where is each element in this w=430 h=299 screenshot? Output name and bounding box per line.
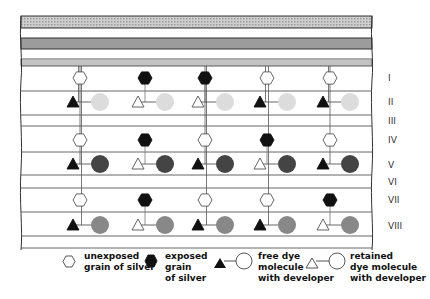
- layer-label: III: [388, 116, 396, 126]
- retained-developer-triangle-icon: [192, 96, 204, 107]
- layer-label: I: [388, 73, 391, 83]
- gray-band-layer: [21, 38, 372, 49]
- dye-molecule-circle-icon: [216, 155, 234, 173]
- dye-molecule-circle-icon: [91, 93, 109, 111]
- dye-molecule-circle-icon: [278, 216, 296, 234]
- unexposed-silver-grain-icon: [260, 194, 274, 206]
- right-edge: [371, 16, 372, 250]
- retained-dye-triangle-icon: [306, 258, 318, 268]
- free-developer-triangle-icon: [254, 219, 266, 230]
- exposed-silver-grain-icon: [138, 134, 152, 146]
- legend-unexposed: unexposed grain of silver: [63, 251, 155, 272]
- retained-developer-triangle-icon: [132, 158, 144, 169]
- dye-molecule-circle-icon: [341, 216, 359, 234]
- legend-exposed-line1: exposed: [165, 251, 207, 261]
- dye-molecule-circle-icon: [91, 216, 109, 234]
- legend-retained-dye-line3: with developer: [350, 273, 427, 283]
- exposed-silver-grain-icon: [138, 72, 152, 84]
- legend-free-dye-line3: with developer: [258, 273, 335, 283]
- dye-molecule-circle-icon: [156, 216, 174, 234]
- legend-unexposed-line2: grain of silver: [84, 262, 155, 272]
- legend-retained-dye-line2: dye molecule: [350, 262, 417, 272]
- free-developer-triangle-icon: [192, 219, 204, 230]
- free-developer-triangle-icon: [67, 219, 79, 230]
- unexposed-silver-grain-icon: [198, 134, 212, 146]
- dye-molecule-circle-icon: [91, 155, 109, 173]
- layer-label: V: [388, 160, 395, 170]
- layer-label: IV: [388, 135, 398, 145]
- unexposed-silver-grain-icon: [198, 194, 212, 206]
- unexposed-silver-grain-icon: [73, 194, 87, 206]
- legend-retained-dye-line1: retained: [350, 251, 393, 261]
- free-developer-triangle-icon: [192, 158, 204, 169]
- exposed-hexagon-icon: [145, 255, 157, 267]
- legend-exposed-line2: grain: [165, 262, 191, 272]
- free-developer-triangle-icon: [67, 96, 79, 107]
- exposed-silver-grain-icon: [260, 134, 274, 146]
- exposed-silver-grain-icon: [138, 194, 152, 206]
- dye-molecule-circle-icon: [216, 93, 234, 111]
- top-support-layer: [21, 16, 372, 28]
- legend-free-dye-line1: free dye: [258, 251, 300, 261]
- free-developer-triangle-icon: [317, 158, 329, 169]
- legend-exposed-line3: of silver: [165, 273, 207, 283]
- unexposed-silver-grain-icon: [260, 72, 274, 84]
- unexposed-hexagon-icon: [63, 256, 75, 267]
- retained-developer-triangle-icon: [254, 158, 266, 169]
- exposed-silver-grain-icon: [198, 72, 212, 84]
- dye-molecule-circle-icon: [341, 155, 359, 173]
- dye-molecule-circle-icon: [278, 155, 296, 173]
- free-dye-triangle-icon: [214, 258, 226, 268]
- unexposed-silver-grain-icon: [323, 134, 337, 146]
- layer-label: VIII: [388, 221, 402, 231]
- free-developer-triangle-icon: [317, 96, 329, 107]
- exposed-silver-grain-icon: [323, 194, 337, 206]
- legend: unexposed grain of silver exposed grain …: [63, 251, 427, 283]
- left-edge: [20, 16, 21, 250]
- legend-unexposed-line1: unexposed: [84, 251, 139, 261]
- dye-molecule-circle-icon: [236, 253, 252, 269]
- layer-label: II: [388, 97, 393, 107]
- grain-column: [132, 72, 174, 234]
- layer-label: VI: [388, 177, 397, 187]
- diagram: IIIIIIIVVVIVIIVIII unexposed grain of si…: [0, 0, 430, 299]
- layer-label: VII: [388, 195, 399, 205]
- retained-developer-triangle-icon: [132, 219, 144, 230]
- unexposed-silver-grain-icon: [73, 72, 87, 84]
- legend-exposed: exposed grain of silver: [145, 251, 207, 283]
- dye-molecule-circle-icon: [156, 93, 174, 111]
- dye-molecule-circle-icon: [216, 216, 234, 234]
- unexposed-silver-grain-icon: [73, 134, 87, 146]
- dye-molecule-circle-icon: [341, 93, 359, 111]
- wavy-band: [21, 59, 372, 66]
- retained-developer-triangle-icon: [317, 219, 329, 230]
- free-developer-triangle-icon: [67, 158, 79, 169]
- dye-molecule-circle-icon: [329, 253, 345, 269]
- legend-free-dye-line2: molecule: [258, 262, 304, 272]
- retained-developer-triangle-icon: [132, 96, 144, 107]
- dye-molecule-circle-icon: [156, 155, 174, 173]
- dye-molecule-circle-icon: [278, 93, 296, 111]
- layer-labels: IIIIIIIVVVIVIIVIII: [388, 73, 402, 231]
- free-developer-triangle-icon: [254, 96, 266, 107]
- unexposed-silver-grain-icon: [323, 72, 337, 84]
